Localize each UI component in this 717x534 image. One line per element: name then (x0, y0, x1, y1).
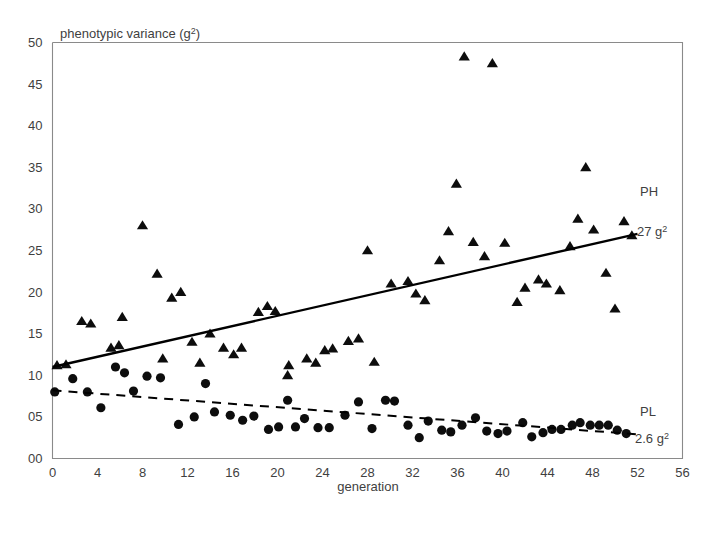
data-point-circle (502, 426, 511, 435)
data-point-circle (210, 407, 219, 416)
data-point-circle (283, 396, 292, 405)
data-point-circle (390, 396, 399, 405)
x-tick-label: 36 (450, 465, 464, 480)
data-point-circle (604, 421, 613, 430)
data-point-circle (190, 412, 199, 421)
x-tick-label: 48 (585, 465, 599, 480)
data-point-circle (264, 425, 273, 434)
data-point-circle (129, 387, 138, 396)
x-tick-label: 16 (225, 465, 239, 480)
data-point-circle (142, 372, 151, 381)
y-tick-label: 40 (28, 118, 42, 133)
x-tick-label: 32 (405, 465, 419, 480)
x-axis-title: generation (337, 479, 398, 494)
y-tick-label: 35 (28, 160, 42, 175)
data-point-circle (354, 397, 363, 406)
y-tick-label: 30 (28, 201, 42, 216)
data-point-circle (68, 374, 77, 383)
data-point-circle (96, 403, 105, 412)
x-tick-label: 56 (675, 465, 689, 480)
data-point-circle (547, 425, 556, 434)
data-point-circle (313, 423, 322, 432)
data-point-circle (50, 387, 59, 396)
y-tick-label: 00 (28, 451, 42, 466)
data-point-circle (300, 414, 309, 423)
data-point-circle (291, 422, 300, 431)
data-point-circle (120, 368, 129, 377)
data-point-circle (437, 426, 446, 435)
series-value-label-pl: 2.6 g2 (635, 431, 669, 446)
series-label-pl: PL (640, 404, 656, 419)
x-tick-label: 12 (180, 465, 194, 480)
data-point-circle (493, 429, 502, 438)
x-tick-label: 4 (94, 465, 101, 480)
data-point-circle (527, 432, 536, 441)
data-point-circle (226, 411, 235, 420)
y-tick-label: 05 (28, 409, 42, 424)
y-tick-label: 50 (28, 35, 42, 50)
data-point-circle (457, 421, 466, 430)
data-point-circle (595, 421, 604, 430)
data-point-circle (156, 373, 165, 382)
series-label-ph: PH (640, 184, 658, 199)
data-point-circle (482, 426, 491, 435)
y-tick-label: 25 (28, 243, 42, 258)
x-tick-label: 8 (139, 465, 146, 480)
x-tick-label: 20 (270, 465, 284, 480)
chart-background (0, 0, 717, 534)
data-point-circle (381, 396, 390, 405)
data-point-circle (238, 416, 247, 425)
y-axis-title: phenotypic variance (g2) (60, 26, 200, 41)
data-point-circle (403, 421, 412, 430)
data-point-circle (415, 433, 424, 442)
x-tick-label: 44 (540, 465, 554, 480)
data-point-circle (446, 427, 455, 436)
data-point-circle (367, 424, 376, 433)
x-tick-label: 28 (360, 465, 374, 480)
data-point-circle (325, 423, 334, 432)
data-point-circle (538, 428, 547, 437)
y-tick-label: 10 (28, 368, 42, 383)
y-tick-label: 15 (28, 326, 42, 341)
x-tick-label: 24 (315, 465, 329, 480)
y-tick-label: 45 (28, 77, 42, 92)
data-point-circle (249, 411, 258, 420)
data-point-circle (576, 418, 585, 427)
data-point-circle (201, 379, 210, 388)
data-point-circle (174, 420, 183, 429)
x-tick-label: 52 (630, 465, 644, 480)
data-point-circle (274, 422, 283, 431)
y-tick-label: 20 (28, 285, 42, 300)
x-axis-tick-labels: 048121620242832364044485256 (49, 465, 690, 480)
x-tick-label: 40 (495, 465, 509, 480)
data-point-circle (111, 362, 120, 371)
phenotypic-variance-scatter-plot: 0005101520253035404550 04812162024283236… (0, 0, 717, 534)
data-point-circle (586, 421, 595, 430)
chart-figure: 0005101520253035404550 04812162024283236… (0, 0, 717, 534)
x-tick-label: 0 (49, 465, 56, 480)
